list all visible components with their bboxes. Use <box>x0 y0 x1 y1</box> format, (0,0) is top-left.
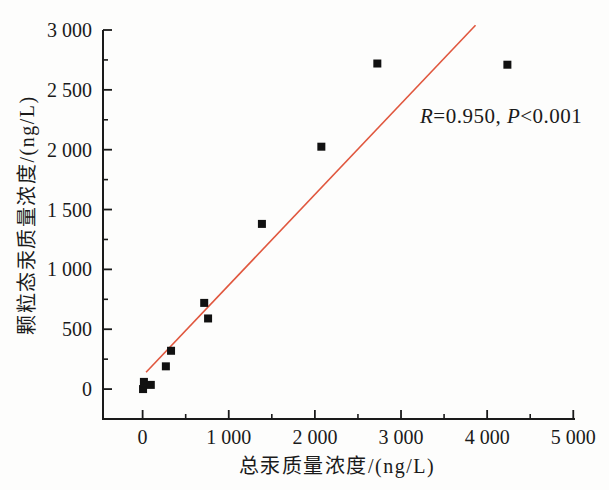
y-axis-title: 颗粒态汞质量浓度/(ng/L) <box>11 95 40 334</box>
y-tick-label: 2 000 <box>47 139 92 161</box>
data-point <box>503 61 511 69</box>
data-point <box>200 299 208 307</box>
annotation-stat-value: =0.950, <box>433 104 507 128</box>
data-point <box>373 60 381 68</box>
y-tick-label: 500 <box>62 318 92 340</box>
data-point <box>317 143 325 151</box>
data-point <box>258 220 266 228</box>
annotation-stat-symbol: P <box>507 104 520 128</box>
data-point <box>147 381 155 389</box>
chart-canvas: 01 0002 0003 0004 0005 00005001 0001 500… <box>0 0 609 490</box>
y-tick-label: 1 500 <box>47 199 92 221</box>
y-tick-label: 3 000 <box>47 19 92 41</box>
regression-line <box>146 25 475 372</box>
x-tick-label: 1 000 <box>206 426 251 448</box>
y-tick-label: 2 500 <box>47 79 92 101</box>
annotation-stat-symbol: R <box>420 104 433 128</box>
correlation-annotation: R=0.950, P<0.001 <box>420 104 582 129</box>
data-point <box>162 362 170 370</box>
y-tick-label: 0 <box>82 378 92 400</box>
x-tick-label: 0 <box>138 426 148 448</box>
x-tick-label: 3 000 <box>379 426 424 448</box>
scatter-chart-figure: 01 0002 0003 0004 0005 00005001 0001 500… <box>0 0 609 490</box>
data-point <box>167 347 175 355</box>
x-tick-label: 2 000 <box>292 426 337 448</box>
x-axis-title: 总汞质量浓度/(ng/L) <box>239 450 435 479</box>
data-point <box>139 385 147 393</box>
annotation-stat-value: <0.001 <box>520 104 582 128</box>
x-tick-label: 4 000 <box>465 426 510 448</box>
data-point <box>140 378 148 386</box>
data-point <box>204 314 212 322</box>
x-tick-label: 5 000 <box>551 426 596 448</box>
y-tick-label: 1 000 <box>47 258 92 280</box>
